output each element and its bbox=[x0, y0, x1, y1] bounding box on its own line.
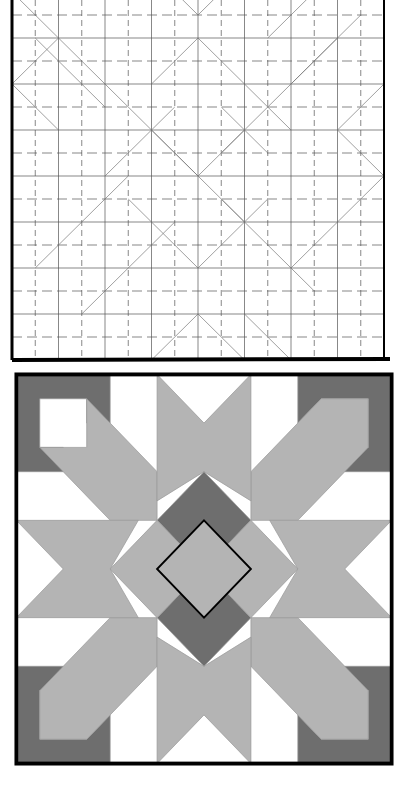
pattern-grid-drawing bbox=[0, 0, 416, 370]
quilt-block-svg bbox=[14, 372, 394, 766]
quilt-block-illustration bbox=[14, 372, 394, 766]
side-caption bbox=[404, 440, 416, 600]
grid-drawing-svg bbox=[0, 0, 416, 370]
